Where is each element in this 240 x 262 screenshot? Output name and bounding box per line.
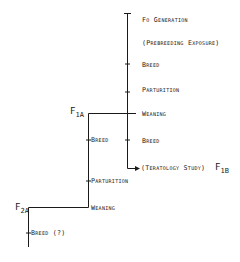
label-breed: Breed xyxy=(142,62,160,69)
label-prebreeding-exposure: (Prebreeding Exposure) xyxy=(142,40,220,47)
label-weaning: Weaning xyxy=(142,111,166,118)
label-f2a-breed: Breed (?) xyxy=(31,230,66,237)
label-f1a-weaning: Weaning xyxy=(91,205,115,212)
generation-f1b: F1B xyxy=(215,163,229,175)
label-parturition: Parturition xyxy=(142,87,179,94)
label-f1a-breed: Breed xyxy=(91,137,109,144)
label-breed-2: Breed xyxy=(142,138,160,145)
generation-f1a: F1A xyxy=(70,107,84,119)
label-f1a-parturition: Parturition xyxy=(91,178,128,185)
generation-f2a: F2A xyxy=(15,203,29,215)
label-teratology-study: (Teratology Study) xyxy=(141,165,205,172)
label-fo-generation: Fo Generation xyxy=(142,17,188,24)
